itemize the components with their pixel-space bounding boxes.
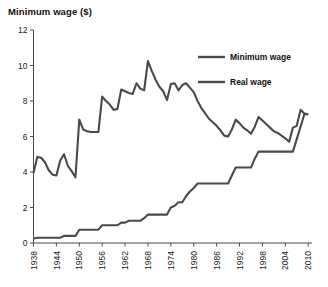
x-axis-ticks: 1938194419501956196219681974198019861992… bbox=[29, 243, 314, 270]
data-series-group bbox=[34, 61, 309, 239]
x-tick-label: 1956 bbox=[97, 251, 107, 270]
x-tick-label: 2010 bbox=[303, 251, 313, 270]
legend-label-0: Minimum wage bbox=[230, 52, 291, 62]
x-tick-label: 2004 bbox=[280, 251, 290, 270]
x-tick-label: 1944 bbox=[52, 251, 62, 270]
x-tick-label: 1974 bbox=[166, 251, 176, 270]
x-tick-label: 1950 bbox=[74, 251, 84, 270]
y-tick-label: 12 bbox=[18, 25, 28, 35]
x-tick-label: 1998 bbox=[258, 251, 268, 270]
x-tick-label: 1962 bbox=[120, 251, 130, 270]
y-tick-label: 10 bbox=[18, 61, 28, 71]
x-tick-label: 1980 bbox=[189, 251, 199, 270]
x-tick-label: 1986 bbox=[212, 251, 222, 270]
minimum-wage-chart: Minimum wage ($) 024681012 1938194419501… bbox=[0, 0, 328, 287]
chart-plot-area: 024681012 193819441950195619621968197419… bbox=[0, 0, 328, 287]
y-tick-label: 4 bbox=[23, 167, 28, 177]
y-tick-label: 0 bbox=[23, 238, 28, 248]
x-tick-label: 1938 bbox=[29, 251, 39, 270]
chart-legend: Minimum wageReal wage bbox=[198, 52, 291, 87]
x-tick-label: 1992 bbox=[235, 251, 245, 270]
x-tick-label: 1968 bbox=[143, 251, 153, 270]
y-tick-label: 8 bbox=[23, 96, 28, 106]
y-tick-label: 6 bbox=[23, 132, 28, 142]
y-tick-label: 2 bbox=[23, 203, 28, 213]
y-axis-ticks: 024681012 bbox=[18, 25, 33, 248]
legend-label-1: Real wage bbox=[230, 77, 272, 87]
